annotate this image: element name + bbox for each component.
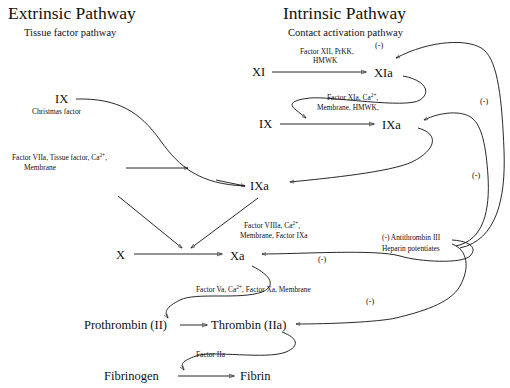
extrinsic-pathway-title: Extrinsic Pathway — [8, 3, 136, 23]
antithrombin-label-line1: (-) Antithrombin III — [382, 233, 441, 242]
cofactor-extrinsic-line2: Membrane — [24, 163, 57, 172]
cofactor-x-xa-line2: Membrane, Factor IXa — [240, 231, 308, 240]
minus-label-xa: (-) — [318, 255, 326, 264]
node-xa: Xa — [230, 249, 245, 263]
curve-ixa-intrinsic-to-common — [290, 128, 432, 182]
node-ixa-common: IXa — [250, 179, 269, 193]
curve-antithrombin-inhibits-xa — [262, 240, 473, 261]
node-fibrin: Fibrin — [240, 369, 271, 383]
minus-label-ixa: (-) — [472, 171, 480, 180]
curve-ix-extrinsic-to-ixa — [76, 99, 245, 186]
antithrombin-label-line2: Heparin potentiates — [382, 244, 440, 253]
extrinsic-pathway-subtitle: Tissue factor pathway — [24, 27, 117, 38]
arrow-extrinsic-to-x-activation — [118, 196, 182, 248]
intrinsic-pathway-title: Intrinsic Pathway — [283, 3, 406, 23]
minus-label-thrombin: (-) — [366, 297, 374, 306]
node-ix-extrinsic-subtitle: Christmas factor — [32, 107, 82, 116]
cofactor-extrinsic-line1: Factor VIIa, Tissue factor, Ca2+, — [12, 152, 107, 162]
cofactor-fibrinogen-line1: Factor IIa — [196, 350, 226, 359]
node-thrombin: Thrombin (IIa) — [211, 318, 286, 332]
cofactor-ix-ixa-line2: Membrane, HMWK, — [317, 103, 379, 112]
cofactor-xi-xia-line1: Factor XII, PrKK, — [300, 47, 354, 56]
coagulation-cascade-diagram: Extrinsic Pathway Tissue factor pathway … — [0, 0, 510, 388]
node-prothrombin: Prothrombin (II) — [84, 318, 167, 332]
curve-antithrombin-inhibits-xia — [396, 42, 504, 248]
intrinsic-pathway-subtitle: Contact activation pathway — [288, 27, 404, 38]
cofactor-x-xa-line1: Factor VIIIa, Ca2+, — [244, 220, 300, 230]
cofactor-prothrombin-line1: Factor Va, Ca2+, Factor Xa, Membrane — [196, 284, 312, 294]
cofactor-xi-xia-line2: HMWK — [313, 56, 338, 65]
node-x: X — [116, 248, 125, 262]
node-xi: XI — [252, 65, 265, 79]
node-xia: XIa — [374, 66, 393, 80]
minus-label-xia: (-) — [375, 41, 383, 50]
node-fibrinogen: Fibrinogen — [104, 369, 160, 383]
minus-label-xia-right: (-) — [480, 97, 488, 106]
node-ix-extrinsic: IX — [55, 92, 68, 106]
node-ixa-intrinsic: IXa — [382, 118, 401, 132]
node-ix-intrinsic: IX — [259, 117, 272, 131]
